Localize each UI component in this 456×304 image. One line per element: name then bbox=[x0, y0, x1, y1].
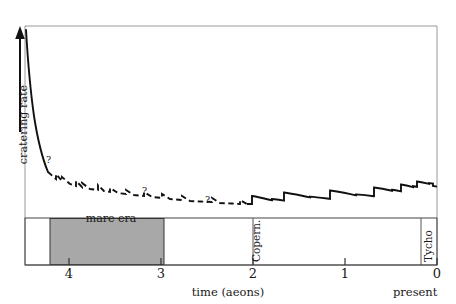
y-axis-label: cratering rate bbox=[17, 70, 30, 180]
mare-era-box bbox=[50, 219, 164, 265]
uncertainty-mark-2: ? bbox=[142, 185, 147, 196]
x-tick-label-2: 2 bbox=[243, 266, 263, 281]
x-tick-label-3: 3 bbox=[151, 266, 171, 281]
event-label-tycho: Tycho bbox=[422, 230, 434, 262]
x-tick-label-0: 0 bbox=[427, 266, 447, 281]
curve-segment-recent-sawtooth bbox=[247, 182, 437, 205]
present-label: present bbox=[393, 285, 437, 299]
curve-segment-uncertain-dashed bbox=[48, 172, 247, 204]
cratering-rate-figure: ? ? ? bbox=[0, 0, 456, 304]
mare-era-label: mare era bbox=[86, 212, 137, 225]
mare-era-label-wrap: mare era bbox=[0, 212, 456, 225]
uncertainty-mark-3: ? bbox=[205, 194, 210, 205]
x-tick-label-4: 4 bbox=[59, 266, 79, 281]
x-axis-label: time (aeons) bbox=[0, 285, 456, 299]
x-tick-label-1: 1 bbox=[335, 266, 355, 281]
era-panel bbox=[25, 218, 437, 265]
event-label-copernicus: Copern. bbox=[250, 220, 262, 262]
uncertainty-mark-1: ? bbox=[46, 154, 51, 165]
